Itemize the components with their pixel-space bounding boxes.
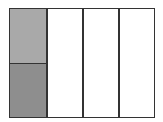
shaded-cell-bottom	[10, 64, 46, 117]
shaded-cell-top	[10, 9, 46, 63]
column-3	[84, 9, 119, 117]
column-1	[10, 9, 46, 117]
fraction-rectangle	[9, 8, 155, 118]
column-2	[48, 9, 83, 117]
column-4	[120, 9, 155, 117]
